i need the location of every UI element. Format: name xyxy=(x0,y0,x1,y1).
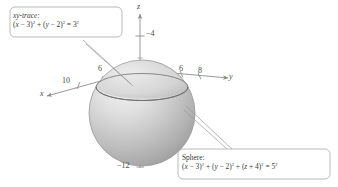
xy-trace-callout: xy-trace: (x − 3)2 + (y − 2)2 = 32 xyxy=(13,11,79,30)
sphere-equation: (x − 3)2 + (y − 2)2 + (z + 4)2 = 52 xyxy=(182,162,277,171)
figure-canvas: xy-trace: (x − 3)2 + (y − 2)2 = 32 Spher… xyxy=(0,0,338,187)
xy-trace-equation: (x − 3)2 + (y − 2)2 = 32 xyxy=(13,20,79,29)
z-tick-label-neg4: −4 xyxy=(146,29,155,38)
x-tick-label-6: 6 xyxy=(98,64,102,73)
sphere-callout: Sphere: (x − 3)2 + (y − 2)2 + (z + 4)2 =… xyxy=(182,153,277,172)
x-tick-label-10: 10 xyxy=(62,76,70,85)
y-tick-label-6: 6 xyxy=(179,64,183,73)
y-tick-label-8: 8 xyxy=(198,66,202,75)
x-tick-10 xyxy=(77,82,80,89)
y-axis-label: y xyxy=(229,72,233,81)
x-axis-label: x xyxy=(40,89,44,98)
z-axis-label: z xyxy=(137,2,140,11)
sphere-top-cap xyxy=(97,61,188,98)
z-tick-label-neg12: −12 xyxy=(117,161,130,170)
xy-trace-callout-title: xy-trace: xyxy=(13,11,79,20)
